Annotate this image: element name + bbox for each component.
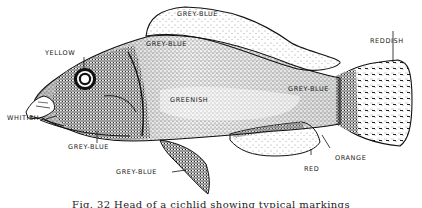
fish-eye	[74, 68, 96, 90]
fish-head	[40, 46, 150, 140]
caudal-fin	[336, 60, 412, 146]
fish-illustration	[0, 0, 422, 208]
pelvic-fin	[160, 140, 209, 194]
label-anal-fin-edge: ORANGE	[335, 155, 366, 162]
label-dorsal-fin: GREY-BLUE	[177, 11, 218, 18]
label-lips: WHITISH	[7, 115, 39, 122]
label-caudal-peduncle: GREY-BLUE	[288, 86, 329, 93]
label-throat: GREY-BLUE	[68, 144, 109, 151]
label-body: GREENISH	[170, 97, 208, 104]
label-back: GREY-BLUE	[146, 41, 187, 48]
fish-diagram: GREY-BLUE GREY-BLUE YELLOW REDDISH GREEN…	[0, 0, 422, 208]
figure-caption: Fig. 32 Head of a cichlid showing typica…	[0, 199, 422, 208]
label-tail: REDDISH	[370, 38, 404, 45]
label-eye: YELLOW	[45, 50, 75, 57]
label-anal-fin: RED	[304, 166, 319, 173]
label-pelvic-fin: GREY-BLUE	[116, 169, 157, 176]
